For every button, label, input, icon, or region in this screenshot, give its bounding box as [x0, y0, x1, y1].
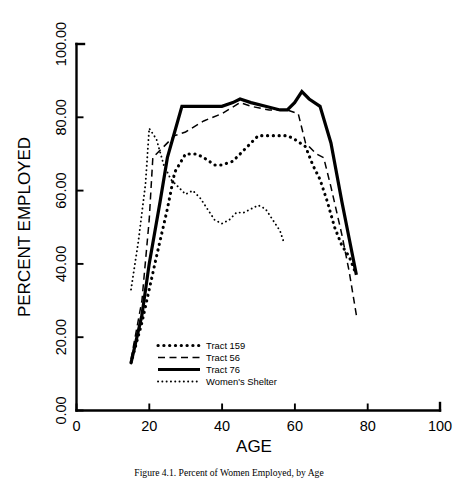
y-axis-tick-labels: 0.00 20.00 40.00 60.00 80.00 100.00	[53, 22, 69, 425]
legend-label-tract-159: Tract 159	[206, 340, 245, 351]
y-tick-label-40: 40.00	[53, 246, 69, 282]
x-tick-label-20: 20	[141, 418, 157, 434]
series-line-tract-56	[131, 103, 356, 360]
series-line-tract-76	[131, 92, 356, 363]
x-tick-label-0: 0	[72, 418, 80, 434]
figure-container: 0.00 20.00 40.00 60.00 80.00 100.00 PERC…	[0, 0, 458, 478]
legend-label-tract-56: Tract 56	[206, 352, 240, 363]
x-tick-label-80: 80	[360, 418, 376, 434]
x-tick-label-100: 100	[428, 418, 452, 434]
figure-caption: Figure 4.1. Percent of Women Employed, b…	[134, 467, 323, 478]
x-axis-tick-labels: 0 20 40 60 80 100	[72, 418, 452, 434]
x-tick-label-40: 40	[214, 418, 230, 434]
series-group	[131, 92, 356, 363]
y-axis-title: PERCENT EMPLOYED	[15, 137, 34, 317]
legend-label-womens-shelter: Women's Shelter	[206, 376, 277, 387]
y-tick-label-100: 100.00	[53, 22, 69, 66]
legend: Tract 159 Tract 56 Tract 76 Women's Shel…	[158, 340, 277, 387]
employment-by-age-line-chart: 0.00 20.00 40.00 60.00 80.00 100.00 PERC…	[0, 0, 458, 478]
legend-label-tract-76: Tract 76	[206, 364, 240, 375]
x-axis-title: AGE	[236, 437, 272, 456]
y-tick-label-80: 80.00	[53, 99, 69, 135]
y-tick-label-20: 20.00	[53, 319, 69, 355]
y-tick-label-0: 0.00	[53, 396, 69, 424]
y-tick-label-60: 60.00	[53, 172, 69, 208]
x-tick-label-60: 60	[287, 418, 303, 434]
